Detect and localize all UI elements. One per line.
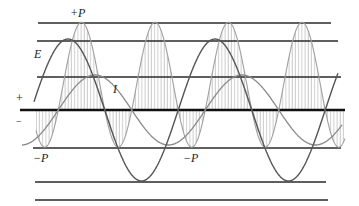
voltage-label-e: E <box>34 48 41 60</box>
plus-sign: + <box>16 92 23 104</box>
minus-p-label-middle: −P <box>183 152 198 164</box>
power-waveform-diagram <box>0 0 359 206</box>
minus-sign: − <box>16 117 22 127</box>
minus-p-label-left: −P <box>33 152 48 164</box>
current-label-i: I <box>113 83 117 95</box>
plus-p-label: +P <box>70 7 85 19</box>
